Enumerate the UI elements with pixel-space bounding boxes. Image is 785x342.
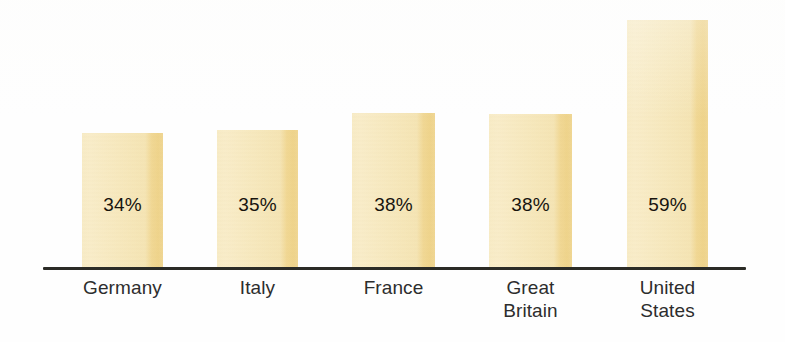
bar-france [352, 113, 435, 269]
bar-value-united-states: 59% [627, 194, 708, 216]
category-label-united-states: United States [601, 276, 734, 322]
bar-value-france: 38% [352, 194, 435, 216]
bar-chart: 34% 35% 38% 38% 59% Germany Italy France… [0, 0, 785, 342]
category-label-france: France [327, 276, 460, 299]
bar-value-germany: 34% [82, 194, 163, 216]
category-label-germany: Germany [56, 276, 189, 299]
bar-united-states [627, 20, 708, 269]
bar-value-italy: 35% [217, 194, 298, 216]
category-label-italy: Italy [191, 276, 324, 299]
plot-area: 34% 35% 38% 38% 59% Germany Italy France… [0, 0, 785, 342]
x-axis-baseline [43, 267, 746, 270]
category-label-great-britain: Great Britain [464, 276, 597, 322]
bar-value-great-britain: 38% [489, 194, 572, 216]
bar-great-britain [489, 114, 572, 269]
